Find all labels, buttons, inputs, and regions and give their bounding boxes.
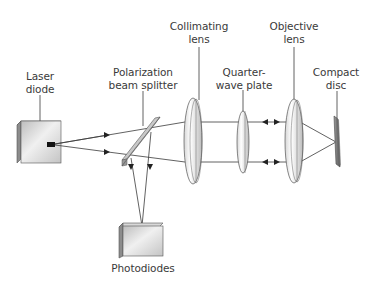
photodiodes-block	[119, 223, 163, 258]
laser-emitter	[47, 142, 55, 147]
laser-diode-block	[17, 121, 61, 163]
label-quarter-wave-plate: Quarter- wave plate	[216, 66, 273, 91]
label-line: disc	[313, 79, 359, 92]
label-compact-disc: Compact disc	[313, 66, 359, 91]
label-line: Laser	[26, 70, 55, 83]
label-line: Quarter-	[216, 66, 273, 79]
label-line: Objective	[270, 20, 319, 33]
label-objective-lens: Objective lens	[270, 20, 319, 45]
label-collimating-lens: Collimating lens	[170, 20, 228, 45]
label-line: Photodiodes	[111, 262, 174, 275]
label-beam-splitter: Polarization beam splitter	[109, 66, 178, 91]
label-line: wave plate	[216, 79, 273, 92]
label-line: Collimating	[170, 20, 228, 33]
bidirectional-arrows	[262, 119, 280, 165]
label-line: Compact	[313, 66, 359, 79]
label-line: diode	[26, 83, 55, 96]
label-photodiodes: Photodiodes	[111, 262, 174, 275]
collimating-lens-shape	[184, 98, 202, 184]
label-line: beam splitter	[109, 79, 178, 92]
beam-splitter-plate	[122, 117, 160, 166]
label-line: Polarization	[109, 66, 178, 79]
objective-lens-shape	[285, 99, 303, 183]
compact-disc-shape	[334, 116, 341, 167]
label-laser-diode: Laser diode	[26, 70, 55, 95]
label-line: lens	[270, 33, 319, 46]
label-line: lens	[170, 33, 228, 46]
quarter-wave-plate-shape	[237, 111, 249, 173]
outgoing-beams	[55, 122, 185, 162]
parallel-beams	[185, 122, 336, 162]
